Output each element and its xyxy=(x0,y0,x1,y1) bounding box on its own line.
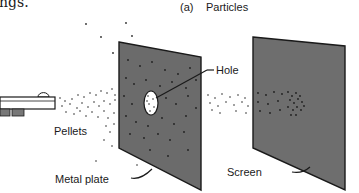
pellets-through-hole xyxy=(207,93,249,114)
label-pellets: Pellets xyxy=(54,125,87,137)
screen xyxy=(253,37,345,190)
diagram-title: Particles xyxy=(206,1,248,13)
hole xyxy=(144,91,158,115)
label-screen: Screen xyxy=(227,166,262,178)
metal-plate xyxy=(119,42,201,190)
particles-diagram: ngs. (a) Particles Hole Pellets Metal pl… xyxy=(0,0,359,193)
panel-label: (a) xyxy=(180,1,193,13)
diagram-canvas xyxy=(0,0,359,193)
label-metal-plate: Metal plate xyxy=(55,173,109,185)
gun-icon xyxy=(0,93,55,116)
caption-fragment: ngs. xyxy=(0,0,29,10)
label-hole: Hole xyxy=(216,64,239,76)
